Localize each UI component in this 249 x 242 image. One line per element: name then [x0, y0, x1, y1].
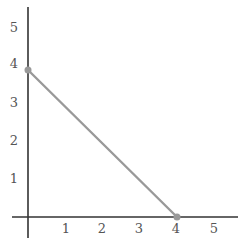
data-point-x-intercept [174, 214, 181, 221]
x-tick-2: 2 [98, 221, 106, 236]
x-tick-3: 3 [135, 221, 143, 236]
x-tick-labels: 1 2 3 4 5 [62, 221, 218, 236]
data-point-y-intercept [25, 67, 32, 74]
data-line-segment [28, 70, 177, 217]
x-tick-1: 1 [62, 221, 70, 236]
y-tick-4: 4 [10, 56, 18, 71]
y-tick-3: 3 [10, 95, 18, 110]
x-tick-5: 5 [210, 221, 218, 236]
y-tick-5: 5 [10, 20, 18, 35]
y-tick-1: 1 [10, 171, 18, 186]
y-tick-2: 2 [10, 133, 18, 148]
y-tick-labels: 5 4 3 2 1 [10, 20, 18, 186]
x-tick-4: 4 [172, 221, 180, 236]
chart-canvas: 5 4 3 2 1 1 2 3 4 5 [0, 0, 249, 242]
